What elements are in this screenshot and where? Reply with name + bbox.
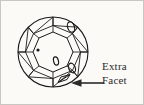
callout-arrow-icon — [71, 79, 104, 87]
callout-label-line-1: Extra — [102, 59, 144, 73]
callout-label-line-2: Facet — [102, 73, 144, 87]
figure-container: Extra Facet — [0, 0, 144, 105]
star-facet-lines — [26, 26, 81, 79]
crystal-inclusion-icons — [53, 21, 77, 74]
extra-facet-callout-label: Extra Facet — [102, 59, 144, 87]
diamond-diagram — [1, 1, 144, 105]
pinpoint-inclusion-icon — [36, 48, 39, 51]
